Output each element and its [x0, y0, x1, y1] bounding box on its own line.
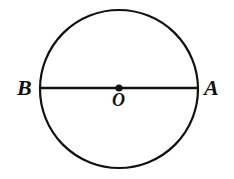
label-point-a: A: [204, 77, 219, 99]
label-point-o: O: [112, 91, 125, 109]
label-point-b: B: [17, 77, 32, 99]
geometry-figure: B A O: [0, 0, 234, 179]
